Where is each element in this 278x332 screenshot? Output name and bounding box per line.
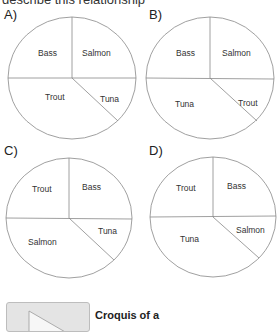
slice-label: Bass xyxy=(227,181,246,191)
thumbnail-caption: Croquis of a xyxy=(95,309,159,321)
slice-label: Salmon xyxy=(236,225,265,235)
slice-label: Tuna xyxy=(180,234,199,244)
thumbnail-image[interactable] xyxy=(6,302,90,332)
document-preview-icon xyxy=(7,303,90,332)
slice-label: Trout xyxy=(176,183,196,193)
